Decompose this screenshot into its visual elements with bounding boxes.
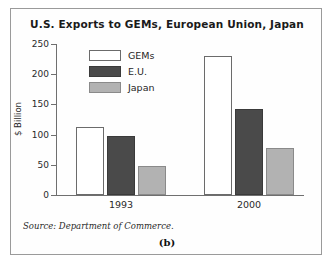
x-axis-line [56,195,304,196]
bar-gems-2000 [204,56,232,195]
legend-swatch [89,50,121,61]
legend-item-e-u: E.U. [89,63,155,79]
y-axis-tick-mark [51,195,56,196]
y-axis-tick-mark [51,165,56,166]
x-axis-label-2000: 2000 [237,199,261,210]
legend-swatch [89,66,121,77]
legend-swatch [89,82,121,93]
y-axis-tick-mark [51,104,56,105]
y-axis-tick-label: 0 [43,190,49,200]
y-axis-tick-label: 150 [32,99,49,109]
chart-legend: GEMsE.U.Japan [89,47,155,95]
legend-item-gems: GEMs [89,47,155,63]
legend-label: Japan [128,82,155,93]
bar-japan-2000 [266,148,294,195]
y-axis-tick-label: 250 [32,39,49,49]
chart-title: U.S. Exports to GEMs, European Union, Ja… [11,18,323,30]
bar-e-u-1993 [107,136,135,195]
legend-item-japan: Japan [89,79,155,95]
y-axis-tick-label: 50 [38,160,49,170]
source-note: Source: Department of Commerce. [23,221,174,231]
y-axis-tick-mark [51,135,56,136]
y-axis-line [56,44,57,195]
x-axis-label-1993: 1993 [109,199,133,210]
bar-e-u-2000 [235,109,263,195]
y-axis-tick-mark [51,44,56,45]
bar-gems-1993 [76,127,104,195]
legend-label: GEMs [128,50,155,61]
y-axis-tick-label: 100 [32,130,49,140]
figure-label: (b) [11,237,323,248]
figure-panel: U.S. Exports to GEMs, European Union, Ja… [10,8,322,255]
legend-label: E.U. [128,66,147,77]
bar-japan-1993 [138,166,166,195]
y-axis-tick-label: 200 [32,69,49,79]
y-axis-tick-mark [51,74,56,75]
y-axis-title: $ Billion [13,102,23,136]
